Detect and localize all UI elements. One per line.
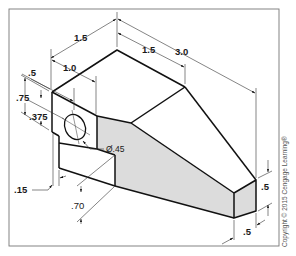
dim-hole-diameter: Ø.45	[106, 144, 125, 154]
shaded-sloped-face	[97, 116, 234, 218]
dim-top-length: 1.5	[142, 44, 156, 55]
dim-overall-length: 3.0	[175, 46, 188, 57]
dim-hole-offset-x: .5	[28, 67, 37, 78]
dim-step-offset: .15	[14, 184, 28, 195]
copyright-notice: Copyright © 2015 Cengage Learning®	[281, 136, 288, 247]
dim-overall-depth: 1.5	[74, 32, 88, 43]
dim-hole-offset-y: .375	[29, 111, 48, 122]
isometric-part-drawing: 1.5 1.5 3.0 1.0 .5 .75 .375 Ø.45 .15 .70…	[0, 0, 296, 256]
hole-circle	[60, 111, 89, 143]
dim-lower-height: .70	[71, 200, 84, 211]
dim-block-width: 1.0	[63, 62, 76, 73]
dim-block-height: .75	[16, 92, 30, 103]
dim-end-width: .5	[243, 226, 252, 237]
dim-end-height: .5	[261, 181, 270, 192]
